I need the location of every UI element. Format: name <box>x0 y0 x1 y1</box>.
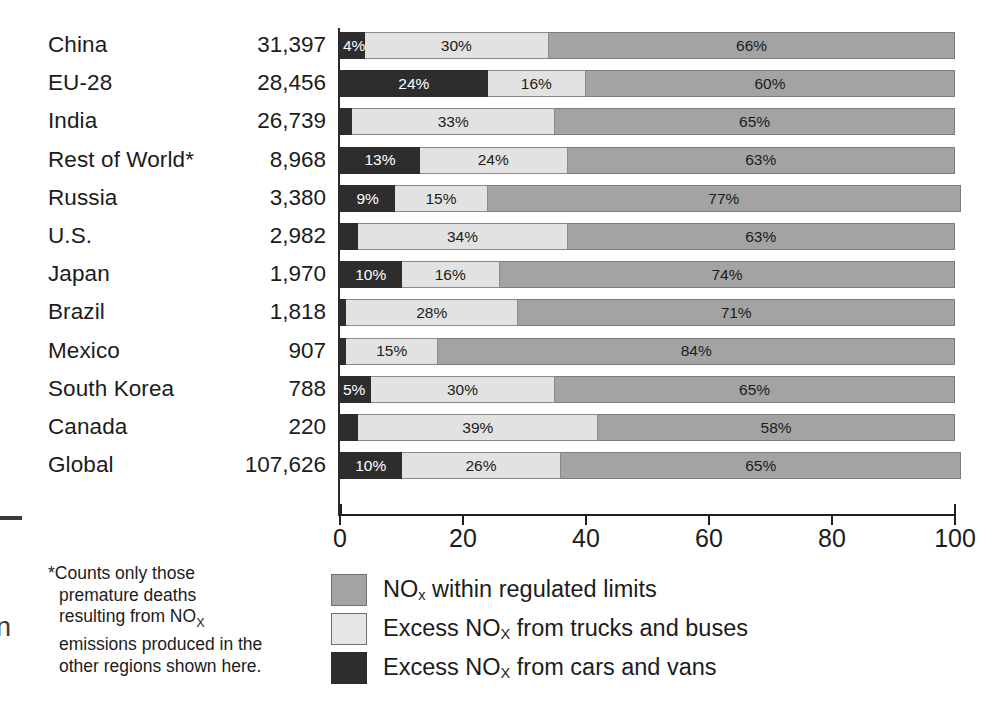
legend-label-prefix: Excess NO <box>383 654 501 680</box>
segment-excess-trucks-buses: 30% <box>371 376 556 403</box>
segment-within-limits: 77% <box>488 185 962 212</box>
segment-excess-cars-vans <box>340 108 352 135</box>
row-deaths-value: 3,380 <box>150 179 326 217</box>
row-deaths-value: 8,968 <box>150 141 326 179</box>
x-axis-line <box>340 514 956 516</box>
row-deaths-value: 220 <box>150 408 326 446</box>
row-deaths-value: 26,739 <box>150 102 326 140</box>
row-deaths-value: 1,970 <box>150 255 326 293</box>
chart-row: South Korea7885%30%65% <box>0 370 1005 408</box>
legend-label-suffix: from cars and vans <box>510 654 716 680</box>
segment-within-limits: 65% <box>561 452 961 479</box>
segment-within-limits: 66% <box>549 32 955 59</box>
chart-row: Brazil1,81828%71% <box>0 293 1005 331</box>
legend-label-suffix: from trucks and buses <box>510 615 748 641</box>
segment-within-limits: 84% <box>438 338 955 365</box>
legend-label-subscript: X <box>501 626 511 642</box>
segment-within-limits: 60% <box>586 70 955 97</box>
chart-row: India26,73933%65% <box>0 102 1005 140</box>
legend-item: Excess NOX from trucks and buses <box>331 611 748 647</box>
chart-row: Russia3,3809%15%77% <box>0 179 1005 217</box>
footnote-line: *Counts only those <box>48 563 316 585</box>
segment-excess-trucks-buses: 34% <box>358 223 567 250</box>
legend-label-subscript: x <box>418 587 425 603</box>
chart-row: Canada22039%58% <box>0 408 1005 446</box>
x-axis-tick-label: 40 <box>546 524 626 553</box>
stacked-bar: 24%16%60% <box>340 70 955 97</box>
segment-within-limits: 58% <box>598 414 955 441</box>
segment-excess-trucks-buses: 15% <box>346 338 438 365</box>
x-axis-tick-label: 20 <box>423 524 503 553</box>
segment-excess-cars-vans: 5% <box>340 376 371 403</box>
stacked-bar: 13%24%63% <box>340 147 955 174</box>
segment-excess-cars-vans: 13% <box>340 147 420 174</box>
segment-within-limits: 71% <box>518 299 955 326</box>
stacked-bar: 5%30%65% <box>340 376 955 403</box>
x-axis-tick-label: 80 <box>792 524 872 553</box>
stacked-bar: 28%71% <box>340 299 955 326</box>
segment-excess-trucks-buses: 24% <box>420 147 568 174</box>
segment-excess-cars-vans: 24% <box>340 70 488 97</box>
segment-within-limits: 63% <box>568 147 955 174</box>
row-deaths-value: 31,397 <box>150 26 326 64</box>
row-deaths-value: 2,982 <box>150 217 326 255</box>
chart-row: U.S.2,98234%63% <box>0 217 1005 255</box>
segment-excess-trucks-buses: 30% <box>365 32 550 59</box>
segment-excess-cars-vans <box>340 414 358 441</box>
chart-row: EU-2828,45624%16%60% <box>0 64 1005 102</box>
legend-color-swatch <box>331 652 367 684</box>
row-deaths-value: 28,456 <box>150 64 326 102</box>
segment-excess-cars-vans: 10% <box>340 452 402 479</box>
legend-label: Excess NOX from trucks and buses <box>383 617 748 641</box>
stacked-bar: 33%65% <box>340 108 955 135</box>
segment-within-limits: 65% <box>555 108 955 135</box>
segment-excess-cars-vans: 4% <box>340 32 365 59</box>
legend-label-subscript: X <box>501 665 511 681</box>
stacked-bar: 15%84% <box>340 338 955 365</box>
footnote-line: resulting from NOX <box>48 606 316 634</box>
chart-row: Rest of World*8,96813%24%63% <box>0 141 1005 179</box>
legend-color-swatch <box>331 613 367 645</box>
segment-excess-cars-vans: 9% <box>340 185 395 212</box>
segment-excess-trucks-buses: 33% <box>352 108 555 135</box>
chart-row: Japan1,97010%16%74% <box>0 255 1005 293</box>
legend-label-prefix: NO <box>383 576 418 602</box>
stacked-bar: 4%30%66% <box>340 32 955 59</box>
row-deaths-value: 1,818 <box>150 293 326 331</box>
chart-row: Mexico90715%84% <box>0 332 1005 370</box>
footnote: *Counts only thosepremature deathsresult… <box>48 563 316 677</box>
segment-within-limits: 63% <box>568 223 955 250</box>
legend-label: Excess NOX from cars and vans <box>383 656 717 680</box>
stacked-bar: 10%26%65% <box>340 452 955 479</box>
legend-label-prefix: Excess NO <box>383 615 501 641</box>
legend-label-suffix: within regulated limits <box>426 576 657 602</box>
footnote-line: emissions produced in the <box>48 634 316 656</box>
segment-excess-cars-vans: 10% <box>340 261 402 288</box>
page-edge-cropped-glyph: n <box>0 612 11 643</box>
x-axis-tick-label: 0 <box>300 524 380 553</box>
stacked-bar: 10%16%74% <box>340 261 955 288</box>
segment-excess-trucks-buses: 16% <box>488 70 586 97</box>
row-deaths-value: 907 <box>150 332 326 370</box>
segment-excess-cars-vans <box>340 223 358 250</box>
segment-within-limits: 74% <box>500 261 955 288</box>
legend-item: Excess NOX from cars and vans <box>331 650 717 686</box>
chart-row: Global107,62610%26%65% <box>0 446 1005 484</box>
segment-within-limits: 65% <box>555 376 955 403</box>
segment-excess-trucks-buses: 39% <box>358 414 598 441</box>
legend-label: NOx within regulated limits <box>383 578 657 602</box>
row-deaths-value: 788 <box>150 370 326 408</box>
stacked-bar-chart: China31,3974%30%66%EU-2828,45624%16%60%I… <box>0 0 1005 560</box>
segment-excess-trucks-buses: 16% <box>402 261 500 288</box>
footnote-line: other regions shown here. <box>48 656 316 678</box>
segment-excess-trucks-buses: 15% <box>395 185 487 212</box>
stacked-bar: 34%63% <box>340 223 955 250</box>
stacked-bar: 9%15%77% <box>340 185 955 212</box>
x-axis-tick-label: 100 <box>915 524 995 553</box>
stacked-bar: 39%58% <box>340 414 955 441</box>
segment-excess-trucks-buses: 26% <box>402 452 562 479</box>
x-axis-tick-label: 60 <box>669 524 749 553</box>
row-deaths-value: 107,626 <box>150 446 326 484</box>
legend-color-swatch <box>331 574 367 606</box>
legend-item: NOx within regulated limits <box>331 572 657 608</box>
